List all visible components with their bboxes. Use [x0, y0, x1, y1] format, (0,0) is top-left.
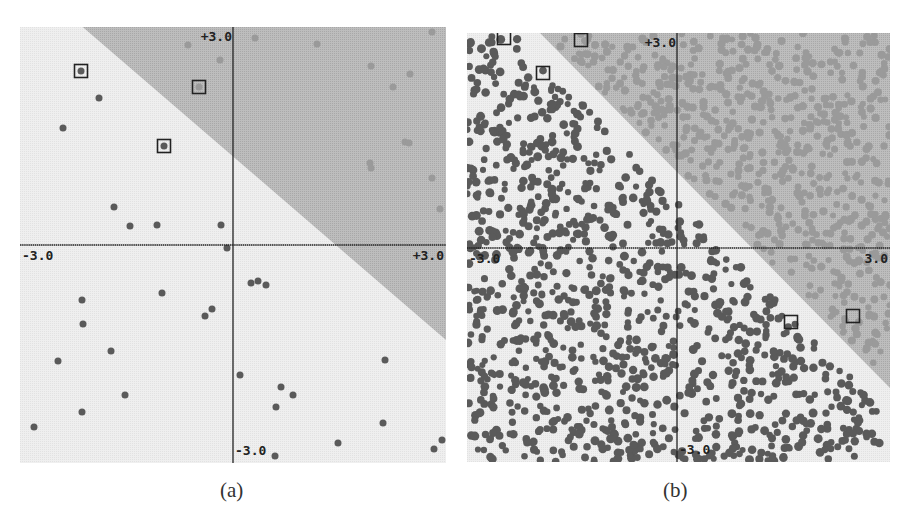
x-min-label: -3.0	[469, 251, 500, 266]
scatter-plot: -3.0+3.0+3.0-3.0	[20, 27, 446, 463]
caption-b: (b)	[663, 478, 688, 503]
y-max-label: +3.0	[201, 29, 232, 44]
scatter-panel-b: -3.03.0+3.0-3.0	[467, 33, 890, 462]
caption-a: (a)	[220, 478, 243, 503]
y-max-label: +3.0	[645, 35, 676, 50]
y-min-label: -3.0	[679, 442, 710, 457]
x-max-label: +3.0	[413, 248, 444, 263]
x-min-label: -3.0	[22, 248, 53, 263]
y-min-label: -3.0	[235, 443, 266, 458]
x-max-label: 3.0	[865, 251, 889, 266]
scatter-plot: -3.03.0+3.0-3.0	[467, 33, 890, 462]
scatter-panel-a: -3.0+3.0+3.0-3.0	[20, 27, 446, 463]
